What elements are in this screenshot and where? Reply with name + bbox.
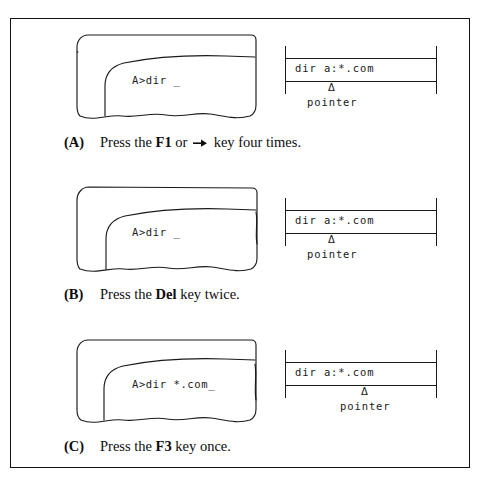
panel-c: A>dir *.com_ dir a:*.com Δ pointer (C)Pr… xyxy=(10,322,470,472)
caption-text-mid-a: or xyxy=(172,134,191,150)
key-name-b: Del xyxy=(156,286,177,302)
screen-text-c: A>dir *.com_ xyxy=(132,378,215,390)
caption-text-before-c: Press the xyxy=(100,438,156,454)
caption-b: (B)Press the Del key twice. xyxy=(64,286,240,303)
caption-a: (A)Press the F1 or key four times. xyxy=(64,134,301,151)
panel-tag-c: (C) xyxy=(64,438,100,455)
pointer-label: pointer xyxy=(307,96,358,108)
buffer-diagram-a: dir a:*.com Δ pointer xyxy=(285,46,437,120)
panel-tag-b: (B) xyxy=(64,286,100,303)
pointer-label: pointer xyxy=(340,400,391,412)
buffer-text-a: dir a:*.com xyxy=(295,62,374,74)
caption-text-before-a: Press the xyxy=(100,134,156,150)
pointer-triangle-icon: Δ xyxy=(328,83,335,93)
right-arrow-icon xyxy=(193,138,208,148)
pointer-triangle-icon: Δ xyxy=(361,387,368,397)
key-name-c: F3 xyxy=(156,438,172,454)
pointer-triangle-icon: Δ xyxy=(328,235,335,245)
caption-c: (C)Press the F3 key once. xyxy=(64,438,231,455)
buffer-diagram-c: dir a:*.com Δ pointer xyxy=(285,350,437,424)
buffer-diagram-b: dir a:*.com Δ pointer xyxy=(285,198,437,272)
caption-text-before-b: Press the xyxy=(100,286,156,302)
key-name-a: F1 xyxy=(156,134,172,150)
caption-text-after-a: key four times. xyxy=(210,134,301,150)
buffer-text-b: dir a:*.com xyxy=(295,214,374,226)
caption-text-after-c: key once. xyxy=(172,438,231,454)
screen-text-b: A>dir _ xyxy=(132,226,180,238)
figure-illustration: A>dir _ dir a:*.com Δ pointer (A)Press t… xyxy=(0,0,495,492)
buffer-text-c: dir a:*.com xyxy=(295,366,374,378)
screen-text-a: A>dir _ xyxy=(132,74,180,86)
panel-b: A>dir _ dir a:*.com Δ pointer (B)Press t… xyxy=(10,170,470,320)
pointer-label: pointer xyxy=(307,248,358,260)
caption-text-after-b: key twice. xyxy=(177,286,240,302)
panel-a: A>dir _ dir a:*.com Δ pointer (A)Press t… xyxy=(10,18,470,168)
panel-tag-a: (A) xyxy=(64,134,100,151)
